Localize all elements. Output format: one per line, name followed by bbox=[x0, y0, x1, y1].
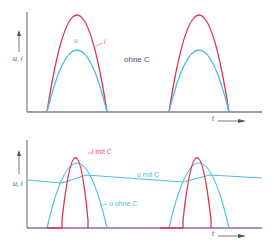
x-axis-label: t bbox=[212, 115, 214, 122]
voltage-with-c-label: u mit C bbox=[137, 171, 159, 178]
voltage-without-c-curve bbox=[47, 163, 107, 228]
arrow-up-icon bbox=[17, 150, 21, 156]
rectifier-diagram: u, i t u i ohne C u, i t i mit C u mit C… bbox=[0, 0, 274, 246]
diagram-svg bbox=[0, 0, 274, 246]
current-with-c-curve bbox=[160, 158, 211, 229]
y-axis-label: u, i bbox=[13, 55, 22, 62]
bottom-plot bbox=[17, 140, 262, 238]
voltage-without-c-label: u ohne C bbox=[109, 200, 137, 207]
x-axis-label: t bbox=[212, 230, 214, 237]
voltage-curve bbox=[169, 50, 229, 112]
current-label: i bbox=[104, 38, 106, 45]
top-plot bbox=[17, 12, 262, 123]
voltage-label: u bbox=[74, 37, 78, 44]
voltage-without-c-curve bbox=[169, 163, 229, 228]
arrow-right-icon bbox=[238, 234, 246, 238]
voltage-curve bbox=[47, 50, 107, 112]
current-curve bbox=[169, 15, 229, 112]
y-axis-label: u, i bbox=[13, 180, 22, 187]
current-curve bbox=[47, 15, 107, 112]
current-with-c-curve bbox=[47, 158, 88, 229]
annotation-ohne-c: ohne C bbox=[124, 55, 150, 64]
arrow-right-icon bbox=[238, 119, 246, 123]
arrow-up-icon bbox=[17, 30, 21, 36]
current-with-c-label: i mit C bbox=[92, 148, 112, 155]
